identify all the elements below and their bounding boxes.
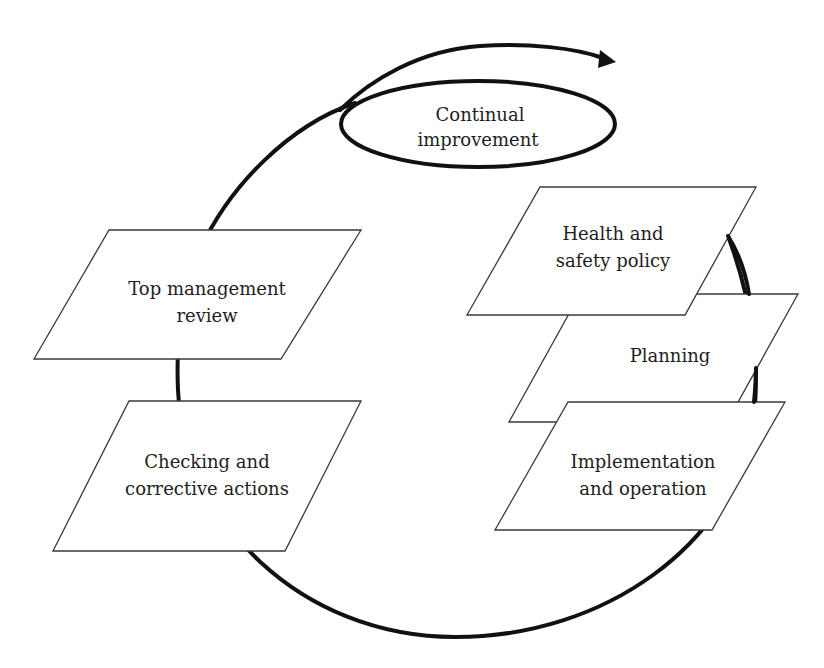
cycle-segment-right-middle [754,368,756,402]
arrowhead-icon [598,50,616,68]
checking-corrective-actions-label-line1: Checking and [144,451,269,472]
implementation-operation-label-line2: and operation [579,478,707,499]
continual-improvement-cycle-diagram: Continual improvement Planning Health an… [0,0,824,668]
continual-improvement-label-line1: Continual [436,104,525,125]
top-management-review-label-line2: review [176,305,238,326]
implementation-operation-label-line1: Implementation [571,451,716,472]
health-safety-policy-label-line1: Health and [562,223,663,244]
top-management-review-label-line1: Top management [128,278,286,299]
planning-label: Planning [630,345,711,366]
continual-improvement-label-line2: improvement [417,129,539,150]
stage-checking-corrective-actions: Checking and corrective actions [53,401,361,551]
checking-corrective-actions-label-line2: corrective actions [125,478,289,499]
health-safety-policy-label-line2: safety policy [556,250,671,271]
checking-corrective-actions-box [53,401,361,551]
stage-top-management-review: Top management review [34,230,361,359]
